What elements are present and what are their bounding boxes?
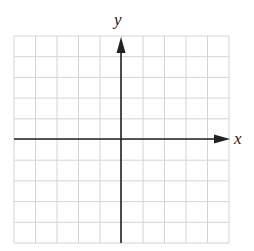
x-axis-label: x [233, 129, 242, 148]
y-axis-arrow-icon [117, 37, 126, 53]
x-axis-arrow-icon [214, 135, 230, 144]
y-axis-label: y [112, 10, 122, 29]
coordinate-plane: x y [0, 0, 254, 251]
